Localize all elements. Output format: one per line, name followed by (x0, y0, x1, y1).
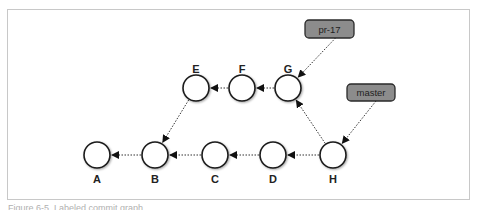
commit-circle (229, 75, 255, 101)
commit-circle (275, 75, 301, 101)
commit-node-g: G (275, 63, 301, 101)
commit-node-c: C (202, 142, 228, 185)
ref-pointer-master (342, 101, 376, 143)
commit-node-f: F (229, 63, 255, 101)
commit-graph: ABCDHEFG pr-17master (0, 0, 477, 210)
edge-h-to-g (296, 100, 325, 143)
commit-circle (84, 142, 110, 168)
commit-label: G (284, 63, 293, 75)
commit-node-e: E (183, 63, 209, 101)
figure-caption: Figure 6-5. Labeled commit graph (8, 203, 143, 210)
commit-circle (320, 142, 346, 168)
commit-circle (142, 142, 168, 168)
nodes: ABCDHEFG (84, 63, 346, 185)
commit-label: C (211, 173, 219, 185)
edge-e-to-b (163, 100, 189, 142)
ref-label: pr-17 (318, 24, 340, 35)
commit-label: F (239, 63, 246, 75)
commit-label: E (192, 63, 199, 75)
branch-ref-pr-17: pr-17 (305, 20, 354, 38)
branch-ref-master: master (347, 84, 395, 101)
commit-circle (202, 142, 228, 168)
commit-label: A (93, 173, 101, 185)
ref-label: master (356, 87, 385, 98)
commit-node-a: A (84, 142, 110, 185)
commit-node-h: H (320, 142, 346, 185)
commit-node-d: D (260, 142, 286, 185)
commit-label: B (151, 173, 159, 185)
commit-circle (260, 142, 286, 168)
commit-circle (183, 75, 209, 101)
commit-node-b: B (142, 142, 168, 185)
commit-label: H (329, 173, 337, 185)
commit-label: D (269, 173, 277, 185)
ref-pointer-pr-17 (298, 38, 335, 77)
